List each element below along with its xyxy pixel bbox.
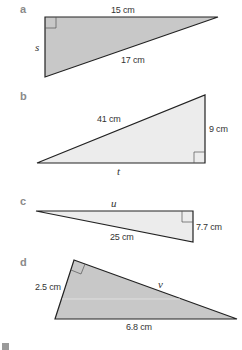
part-label-d: d (20, 256, 27, 268)
side-label-b-right: 9 cm (209, 124, 228, 134)
part-label-b: b (20, 90, 27, 102)
side-label-d-hypotenuse: 6.8 cm (126, 322, 152, 332)
part-label-c: c (20, 195, 26, 207)
triangle-a (45, 17, 218, 77)
side-label-c-top: u (111, 197, 117, 209)
side-label-d-left: 2.5 cm (35, 282, 61, 292)
triangle-d (55, 260, 237, 319)
side-label-c-right: 7.7 cm (196, 222, 222, 232)
side-label-c-hypotenuse: 25 cm (110, 232, 134, 242)
side-label-b-hypotenuse: 41 cm (97, 114, 121, 124)
square-bullet-icon (2, 343, 9, 350)
part-label-a: a (20, 3, 26, 15)
side-label-a-left: s (35, 41, 39, 53)
side-label-b-bottom: t (117, 165, 120, 177)
side-label-d-right: v (158, 278, 163, 290)
side-label-a-top: 15 cm (111, 5, 135, 15)
triangle-b (37, 95, 205, 163)
cut-off-text-row (0, 343, 242, 350)
side-label-a-hypotenuse: 17 cm (121, 55, 145, 65)
